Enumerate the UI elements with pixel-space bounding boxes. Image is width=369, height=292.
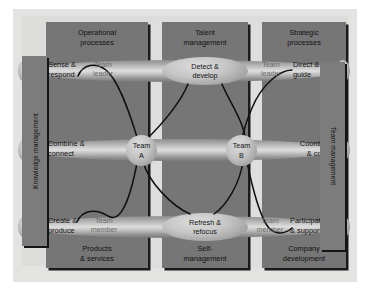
column-footer-products-line1: Products <box>46 244 148 254</box>
sidebar-knowledge-management: Knowledge management <box>22 56 47 246</box>
column-footer-company-development-line2: development <box>262 254 346 264</box>
sidebar-knowledge-management-label: Knowledge management <box>31 113 38 189</box>
column-footer-self-management-line1: Self- <box>162 244 248 254</box>
label-role-team-leader-right-line2: leader <box>252 69 290 78</box>
column-title-talent: Talent management <box>162 28 248 47</box>
column-title-operational: Operational processes <box>46 28 148 47</box>
node-team-a-line1: Team <box>133 141 151 150</box>
label-role-team-member-left-line1: Team <box>84 216 124 225</box>
column-title-strategic: Strategic processes <box>262 28 346 47</box>
label-role-team-leader-right-line1: Team <box>252 60 290 69</box>
label-role-team-member-left: Team member <box>84 216 124 235</box>
node-detect-develop-line1: Detect & <box>191 62 219 71</box>
label-sense-respond-line2: respond <box>48 70 76 80</box>
column-title-talent-line2: management <box>162 38 248 48</box>
column-footer-self-management-line2: management <box>162 254 248 264</box>
label-sense-respond-line1: Sense & <box>48 60 76 70</box>
label-direct-guide-line1: Direct & <box>293 60 319 70</box>
sidebar-team-management: Team management <box>320 62 345 250</box>
node-refresh-refocus: Refresh & refocus <box>162 213 248 241</box>
label-role-team-member-right: Team member <box>250 216 290 235</box>
node-team-b-line2: B <box>239 151 244 160</box>
label-role-team-member-right-line1: Team <box>250 216 290 225</box>
label-combine-connect-line1: Combine & <box>48 139 85 149</box>
column-footer-products: Products & services <box>46 244 148 263</box>
label-sense-respond: Sense & respond <box>48 60 76 79</box>
label-role-team-leader-left-line1: Team <box>84 60 122 69</box>
label-role-team-member-right-line2: member <box>250 225 290 234</box>
label-create-produce-line2: produce <box>48 226 77 236</box>
column-title-operational-line1: Operational <box>46 28 148 38</box>
node-detect-develop: Detect & develop <box>162 57 248 85</box>
diagram-canvas: Operational processes Talent management … <box>0 0 369 292</box>
label-combine-connect: Combine & connect <box>48 139 85 158</box>
label-direct-guide-line2: guide <box>293 70 319 80</box>
label-create-produce: Create & produce <box>48 216 77 235</box>
node-team-a: Team A <box>126 135 157 166</box>
node-detect-develop-line2: develop <box>192 71 217 80</box>
column-footer-self-management: Self- management <box>162 244 248 263</box>
node-refresh-refocus-line1: Refresh & <box>189 218 221 227</box>
column-title-talent-line1: Talent <box>162 28 248 38</box>
label-create-produce-line1: Create & <box>48 216 77 226</box>
column-title-operational-line2: processes <box>46 38 148 48</box>
sidebar-team-management-label: Team management <box>329 127 336 186</box>
column-footer-products-line2: & services <box>46 254 148 264</box>
node-team-b: Team B <box>226 135 257 166</box>
column-title-strategic-line1: Strategic <box>262 28 346 38</box>
node-refresh-refocus-line2: refocus <box>193 227 217 236</box>
label-role-team-member-left-line2: member <box>84 225 124 234</box>
node-team-b-line1: Team <box>233 141 251 150</box>
node-team-a-line2: A <box>139 151 144 160</box>
label-role-team-leader-right: Team leader <box>252 60 290 79</box>
label-combine-connect-line2: connect <box>48 149 85 159</box>
column-title-strategic-line2: processes <box>262 38 346 48</box>
label-role-team-leader-left: Team leader <box>84 60 122 79</box>
label-role-team-leader-left-line2: leader <box>84 69 122 78</box>
label-direct-guide: Direct & guide <box>293 60 319 79</box>
